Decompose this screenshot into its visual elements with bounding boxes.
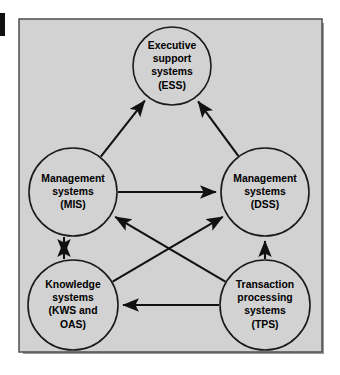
node-management-information-systems: Managementsystems(MIS) (29, 148, 117, 236)
node-label-kws-line-4: OAS) (60, 319, 86, 330)
page-edge-mark (0, 13, 5, 36)
node-label-kws-line-3: (KWS and (48, 305, 97, 316)
node-label-ess-line-2: support (153, 53, 192, 64)
node-label-mis-line-1: Management (41, 173, 105, 184)
systems-interrelationship-diagram: Executivesupportsystems(ESS)Managementsy… (0, 0, 340, 375)
node-label-tps-line-2: processing (237, 292, 292, 303)
node-label-dss-line-3: (DSS) (251, 199, 279, 210)
node-label-ess-line-4: (ESS) (158, 80, 186, 91)
node-label-mis-line-3: (MIS) (60, 199, 85, 210)
node-label-dss-line-2: systems (244, 186, 286, 197)
node-decision-support-systems: Managementsystems(DSS) (221, 148, 309, 236)
node-knowledge-work-and-office-automation-systems: Knowledgesystems(KWS andOAS) (28, 260, 118, 350)
node-label-tps-line-3: systems (244, 305, 286, 316)
node-label-kws-line-2: systems (52, 292, 94, 303)
diagram-canvas: Executivesupportsystems(ESS)Managementsy… (0, 0, 340, 375)
node-executive-support-systems: Executivesupportsystems(ESS) (133, 27, 211, 105)
node-label-ess-line-1: Executive (148, 40, 197, 51)
node-transaction-processing-systems: Transactionprocessingsystems(TPS) (220, 260, 310, 350)
node-label-kws-line-1: Knowledge (45, 279, 101, 290)
node-label-mis-line-2: systems (52, 186, 94, 197)
node-label-ess-line-3: systems (151, 66, 193, 77)
node-label-tps-line-4: (TPS) (251, 319, 278, 330)
node-label-tps-line-1: Transaction (236, 279, 294, 290)
node-label-dss-line-1: Management (233, 173, 297, 184)
